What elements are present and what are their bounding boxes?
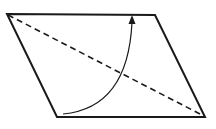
curved-arrow: [63, 22, 132, 114]
arrowhead-icon: [129, 15, 136, 24]
parallelogram-diagram: [0, 0, 216, 129]
dashed-diagonal: [8, 15, 204, 116]
